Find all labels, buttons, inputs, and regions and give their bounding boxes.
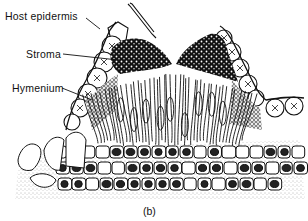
cell-content: [297, 165, 305, 172]
conidiophore: [159, 77, 162, 140]
cell-content: [128, 165, 137, 172]
cell-content: [75, 181, 82, 188]
cell-content: [126, 149, 135, 156]
host-cell: [266, 162, 279, 174]
host-cell: [98, 162, 111, 174]
conidiophore: [165, 75, 166, 143]
conidiophore: [150, 78, 153, 141]
cell-content: [156, 165, 164, 172]
host-cell: [224, 162, 237, 174]
host-cell: [86, 178, 98, 190]
cell-content: [102, 181, 111, 188]
conidiophore: [191, 80, 196, 145]
cell-content: [173, 181, 181, 188]
cell-content: [86, 165, 95, 172]
conidiophore: [154, 78, 156, 145]
stroma: [110, 34, 238, 82]
conidiophore: [220, 86, 227, 142]
cell-content: [131, 181, 138, 188]
conidium: [208, 92, 215, 116]
conidiophore: [170, 74, 172, 142]
cell-content: [201, 181, 208, 188]
host-cell: [184, 178, 196, 190]
cell-content: [169, 149, 177, 156]
cell-content: [240, 165, 248, 172]
cell-content: [281, 149, 289, 156]
fungal-fruiting-body-illustration: [0, 0, 308, 221]
conidiophore: [175, 75, 176, 146]
cell-content: [143, 165, 151, 172]
cell-content: [229, 181, 237, 188]
cell-content: [212, 165, 220, 172]
host-cells-base: [54, 146, 308, 190]
cell-content: [155, 149, 162, 156]
conidium: [167, 97, 174, 121]
conidium: [219, 101, 226, 125]
host-cell: [292, 146, 305, 158]
cell-content: [145, 181, 152, 188]
cell-content: [198, 165, 206, 172]
conidium: [131, 108, 138, 132]
cell-content: [210, 149, 218, 156]
host-cell: [96, 146, 109, 158]
host-cell: [112, 162, 124, 174]
cell-content: [141, 149, 149, 156]
cell-content: [282, 165, 291, 172]
cell-content: [270, 181, 279, 188]
cell-content: [242, 181, 251, 188]
cell-content: [183, 149, 191, 156]
host-cell: [182, 162, 195, 174]
conidiophore: [178, 74, 181, 144]
cell-content: [266, 149, 275, 156]
cell-content: [159, 181, 166, 188]
host-cell: [194, 146, 206, 158]
host-cell: [212, 178, 225, 190]
pseudoparenchyma: [86, 74, 262, 130]
cell-content: [254, 165, 262, 172]
label-hymenium: Hymenium: [12, 82, 64, 94]
label-host-epidermis: Host epidermis: [5, 10, 78, 22]
cell-content: [171, 165, 179, 172]
host-cell: [254, 178, 266, 190]
cell-content: [61, 181, 68, 188]
label-stroma: Stroma: [26, 48, 61, 60]
conidiophore: [184, 78, 185, 145]
cell-content: [116, 181, 124, 188]
leader-host-epidermis: [86, 18, 100, 29]
cell-content: [112, 149, 121, 156]
host-cell: [222, 146, 236, 158]
figure-caption: (b): [143, 205, 156, 217]
trichome: [128, 3, 156, 38]
host-cell: [250, 146, 263, 158]
host-cell: [236, 146, 249, 158]
